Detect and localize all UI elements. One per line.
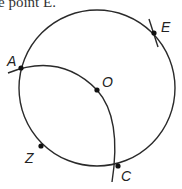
point-o — [94, 87, 99, 92]
label-c: C — [121, 168, 132, 184]
point-e — [151, 30, 156, 35]
label-o: O — [102, 74, 113, 90]
label-a: A — [6, 53, 16, 69]
geometry-diagram: E A O Z C — [0, 0, 182, 189]
point-a — [18, 65, 23, 70]
point-c — [115, 163, 120, 168]
label-e: E — [161, 19, 171, 35]
label-z: Z — [24, 150, 34, 166]
point-z — [38, 143, 43, 148]
